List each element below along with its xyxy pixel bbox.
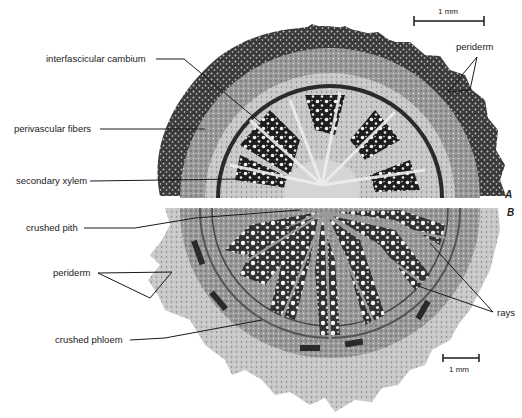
label-secondary-xylem: secondary xylem — [16, 176, 87, 186]
half-label-a: A — [505, 190, 512, 200]
half-label-b: B — [507, 208, 514, 218]
separator-band — [0, 198, 522, 206]
label-crushed-pith: crushed pith — [26, 223, 78, 233]
label-crushed-phloem: crushed phloem — [55, 335, 123, 345]
label-rays: rays — [497, 308, 515, 318]
scale-bar-label-top: 1 mm — [438, 8, 458, 16]
scale-bar-label-bottom: 1 mm — [449, 366, 469, 374]
stem-cross-section-figure: interfascicular cambium perivascular fib… — [0, 0, 522, 418]
label-periderm-left: periderm — [53, 268, 91, 278]
label-perivascular-fibers: perivascular fibers — [14, 124, 91, 134]
label-periderm-right: periderm — [456, 42, 494, 52]
label-interfascicular-cambium: interfascicular cambium — [46, 54, 146, 64]
